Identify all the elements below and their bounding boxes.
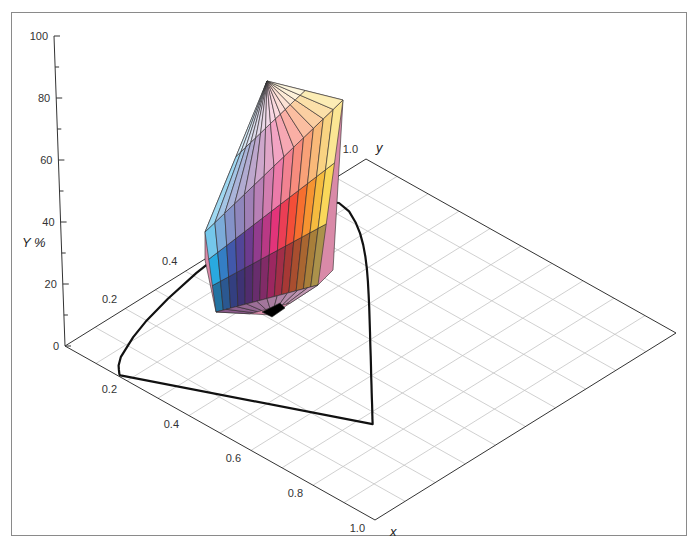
solid-face-low [245, 264, 253, 305]
y-tick-label: 1.0 [343, 143, 358, 155]
grid-line-y [306, 196, 616, 370]
axes [54, 36, 676, 520]
y-tick-label: 0.4 [162, 255, 177, 267]
Y-tick-label: 80 [38, 92, 50, 104]
y-tick-label: 0.2 [102, 293, 117, 305]
solid-face-mid [245, 225, 254, 268]
Y-tick-label: 100 [30, 30, 48, 42]
Y-tick-label: 60 [40, 154, 52, 166]
y-axis-title: y [375, 140, 384, 155]
xyY-colour-solid-figure: 0204060801000.20.40.60.81.00.20.41.0Y %x… [0, 0, 693, 548]
grid-line-x [313, 298, 614, 485]
x-tick-label: 0.8 [288, 487, 303, 499]
x-tick-label: 0.4 [164, 418, 179, 430]
colour-solid [205, 81, 343, 317]
grid-line-x [282, 281, 583, 468]
x-axis-title: x [389, 524, 397, 539]
Y-tick-label: 40 [42, 216, 54, 228]
solid-face-low [237, 268, 245, 306]
x-tick-label: 0.6 [226, 452, 241, 464]
Y-tick-label: 20 [45, 278, 57, 290]
solid-face-low [229, 272, 238, 308]
Y-axis-title: Y % [22, 235, 46, 250]
grid-line-x [344, 316, 645, 503]
x-tick-label: 1.0 [350, 522, 365, 534]
Y-tick-label: 0 [53, 340, 59, 352]
grid-line-y [336, 178, 646, 352]
x-tick-label: 0.2 [102, 383, 117, 395]
